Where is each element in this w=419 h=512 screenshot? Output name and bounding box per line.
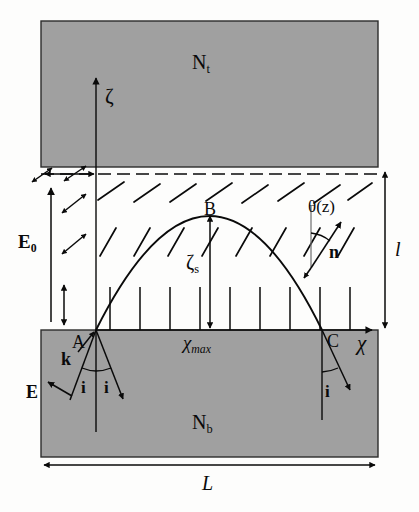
point-b-label: B <box>204 200 216 218</box>
director-vector-n-label: n <box>329 243 339 261</box>
polarization-oscillation-arrows <box>32 166 86 254</box>
bottom-medium-label: Nb <box>192 412 213 432</box>
wavevector-k-label: k <box>61 350 71 368</box>
thickness-label: l <box>395 239 401 259</box>
ray-trajectory-curve <box>96 216 322 330</box>
incidence-angle-left-2-label: i <box>104 379 109 396</box>
e0-field-label: E0 <box>18 232 37 251</box>
point-a-label: A <box>72 333 85 351</box>
director-row-bottom <box>110 287 350 330</box>
incidence-angle-left-1-label: i <box>81 379 86 396</box>
director-vector-n-tail <box>304 268 311 278</box>
incidence-angle-right-label: i <box>325 383 330 400</box>
top-medium-label: Nt <box>192 52 210 72</box>
point-c-label: C <box>327 332 339 350</box>
figure-canvas: Nt Nb ζ χ A B C E0 E k n θ(z) i i i l L … <box>0 0 419 512</box>
zeta-axis-label: ζ <box>105 86 114 107</box>
top-medium-slab <box>41 21 378 167</box>
chi-axis-label: χ <box>357 333 366 354</box>
director-row-middle <box>100 228 354 256</box>
zeta-s-label: ζs <box>186 252 199 272</box>
chi-max-label: χmax <box>183 333 211 352</box>
length-label: L <box>202 473 213 493</box>
theta-angle-label: θ(z) <box>308 198 335 215</box>
polarization-vector-label: E <box>26 383 38 401</box>
